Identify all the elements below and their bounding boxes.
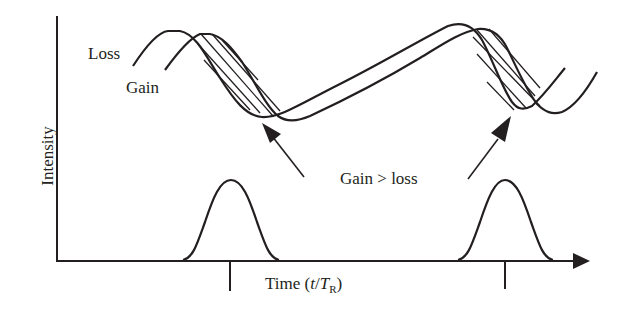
- pulses: [183, 180, 553, 260]
- gain-label: Gain: [126, 78, 159, 98]
- x-axis-label-suffix: ): [336, 274, 342, 293]
- loss-label: Loss: [88, 44, 120, 64]
- arrow-2-head-icon: [491, 116, 511, 142]
- arrow-1-shaft: [272, 136, 304, 177]
- x-axis-label-T: T: [320, 274, 329, 293]
- arrow-1-head-icon: [262, 123, 281, 143]
- pulse-1: [183, 180, 279, 260]
- gain-greater-than-loss-label: Gain > loss: [340, 169, 418, 189]
- x-axis-arrowhead-icon: [573, 253, 590, 269]
- pulse-2: [458, 180, 553, 260]
- y-axis-label: Intensity: [38, 106, 58, 206]
- x-axis-label-prefix: Time (: [265, 274, 310, 293]
- arrow-2-shaft: [468, 139, 498, 179]
- axes: [56, 16, 590, 291]
- x-axis-label: Time (t/TR): [265, 274, 342, 295]
